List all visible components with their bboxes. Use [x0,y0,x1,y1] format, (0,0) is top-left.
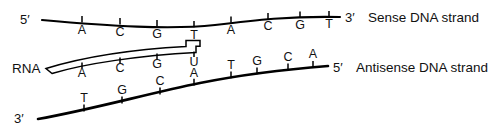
antisense-base: C [283,50,292,64]
sense-base: G [295,18,305,32]
rna-strand-group: RNA A C G U [12,41,200,81]
rna-label: RNA [12,61,41,76]
rna-base: A [78,66,87,80]
diagram-canvas: 5′ 3′ A C G T A C G T Sense DNA strand R… [0,0,489,133]
antisense-base: A [190,66,199,80]
sense-base: G [152,27,162,41]
sense-strand-group: 5′ 3′ A C G T A C G T Sense DNA strand [20,10,479,42]
antisense-base: G [252,54,262,68]
sense-base: C [263,19,272,33]
sense-base: C [115,25,124,39]
antisense-base: G [117,83,127,97]
dna-transcription-diagram: 5′ 3′ A C G T A C G T Sense DNA strand R… [0,0,489,133]
antisense-base: T [80,91,88,105]
sense-base: T [325,17,333,31]
sense-strand-right-prime: 3′ [345,10,355,25]
rna-base: G [152,57,162,71]
sense-strand-left-prime: 5′ [20,12,30,27]
antisense-base: T [227,58,235,72]
antisense-strand-label: Antisense DNA strand [356,60,488,75]
antisense-base: C [155,74,164,88]
sense-base: A [78,23,87,37]
antisense-strand-left-prime: 3′ [14,111,24,126]
rna-base: C [115,61,124,75]
antisense-base: A [309,47,318,61]
sense-strand-label: Sense DNA strand [368,10,479,25]
antisense-strand-right-prime: 5′ [333,60,343,75]
sense-base: A [227,23,236,37]
